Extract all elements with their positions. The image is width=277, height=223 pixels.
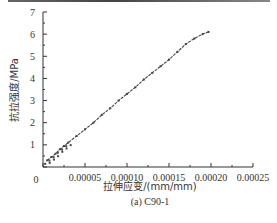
- data-point: [61, 151, 63, 153]
- data-point: [118, 100, 120, 102]
- stress-strain-chart: 12345670.000050.000100.000150.000200.000…: [0, 0, 277, 223]
- data-point: [134, 86, 136, 88]
- y-tick-label: 4: [30, 73, 35, 84]
- data-point: [48, 160, 50, 162]
- figure-caption: (a) C90-1: [131, 196, 170, 208]
- axes: 12345670.000050.000100.000150.000200.000…: [30, 7, 269, 184]
- data-point: [65, 145, 67, 147]
- data-point: [63, 145, 65, 147]
- y-tick-label: 2: [30, 117, 35, 128]
- y-axis-title: 抗拉强度/MPa: [8, 58, 20, 122]
- x-axis-title: 拉伸应变/(mm/mm): [103, 180, 197, 192]
- data-point: [53, 159, 55, 161]
- data-point: [193, 38, 195, 40]
- y-tick-label: 3: [30, 95, 35, 106]
- data-point: [55, 153, 57, 155]
- data-point: [143, 79, 145, 81]
- data-point: [84, 128, 86, 130]
- data-point: [101, 114, 103, 116]
- data-point: [207, 31, 209, 33]
- y-tick-label: 6: [30, 29, 35, 40]
- data-point: [168, 59, 170, 61]
- data-point: [46, 159, 48, 161]
- x-tick-label: 0.00020: [195, 172, 228, 183]
- data-point: [61, 148, 63, 150]
- data-point: [49, 162, 51, 164]
- data-point: [57, 155, 59, 157]
- axis-labels: 0 拉伸应变/(mm/mm) (a) C90-1 抗拉强度/MPa: [8, 58, 197, 208]
- data-point: [50, 156, 52, 158]
- y-tick-label: 5: [30, 51, 35, 62]
- data-point: [160, 65, 162, 67]
- data-point: [109, 107, 111, 109]
- data-point: [70, 144, 72, 146]
- origin-label: 0: [34, 174, 39, 185]
- data-point: [66, 147, 68, 149]
- data-point: [126, 93, 128, 95]
- data-point: [176, 51, 178, 53]
- y-tick-label: 7: [30, 7, 35, 18]
- data-point: [59, 148, 61, 150]
- data-point: [57, 152, 59, 154]
- data-point: [92, 122, 94, 124]
- data-point: [202, 33, 204, 35]
- data-point: [44, 163, 46, 165]
- data-point: [67, 142, 69, 144]
- x-tick-label: 0.00025: [237, 172, 270, 183]
- data-point: [76, 135, 78, 137]
- data-point: [151, 72, 153, 74]
- x-tick-label: 0.00005: [69, 172, 102, 183]
- series-line: [47, 32, 208, 161]
- y-tick-label: 1: [30, 139, 35, 150]
- data-series: [44, 31, 209, 165]
- data-point: [185, 43, 187, 45]
- data-point: [53, 156, 55, 158]
